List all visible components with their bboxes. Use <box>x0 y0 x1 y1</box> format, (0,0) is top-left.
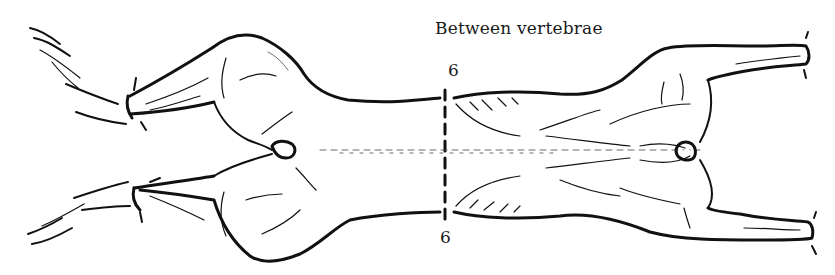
hind-leg-lower <box>134 154 440 261</box>
neck-vent <box>676 142 695 160</box>
rabbit-carcass-drawing <box>0 0 835 275</box>
cut-label-bottom: 6 <box>440 227 451 247</box>
tail-vent <box>272 141 295 158</box>
cut-label-top: 6 <box>448 60 459 80</box>
hind-leg-upper <box>130 35 440 150</box>
hind-foot-upper <box>30 28 146 130</box>
spine-line <box>320 150 700 153</box>
annotation-between-vertebrae: Between vertebrae <box>435 18 603 38</box>
rib-section <box>454 45 813 240</box>
